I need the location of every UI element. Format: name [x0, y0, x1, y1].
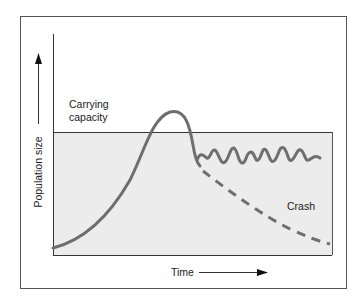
crash-label: Crash [287, 200, 315, 212]
x-axis-label: Time [171, 266, 194, 278]
carrying-capacity-label-2: capacity [69, 111, 108, 123]
carrying-capacity-label: Carrying [69, 98, 109, 110]
population-diagram: Carrying capacity Crash Population size … [0, 0, 363, 304]
y-axis-label: Population size [32, 136, 44, 207]
